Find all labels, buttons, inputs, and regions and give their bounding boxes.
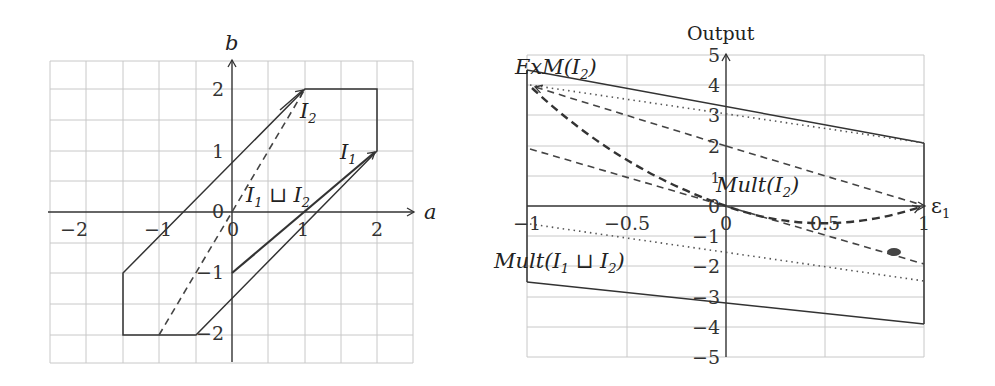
- y-tick: −4: [692, 316, 720, 338]
- x-tick: 0: [720, 212, 732, 234]
- left-plot: −2 −1 0 1 2 −2 −1 1 2 0 a b I2 I1 I1 ⊔ I…: [48, 31, 437, 363]
- epsilon-axis-label: ε1: [931, 194, 950, 221]
- y-tick: −1: [692, 225, 720, 247]
- x-tick: 2: [371, 218, 383, 240]
- right-plot: −1 −0.5 0 0.5 1 5 4 3 2 1 0 −1 −2 −3 −4 …: [493, 22, 950, 368]
- join-label: I1 ⊔ I2: [245, 183, 310, 210]
- x-tick: −2: [60, 218, 88, 240]
- y-tick: 2: [212, 78, 224, 100]
- y-tick: 5: [708, 44, 720, 66]
- x-tick: −0.5: [604, 212, 650, 234]
- y-tick: −3: [692, 286, 720, 308]
- multjoin-upper-dotted: [530, 85, 924, 143]
- multjoin-label: Mult(I1 ⊔ I2): [493, 249, 625, 276]
- exm-label: ExM(I2): [514, 55, 597, 82]
- x-tick: 0: [227, 218, 239, 240]
- a-axis-label: a: [424, 200, 437, 224]
- right-x-tick-labels: −1 −0.5 0 0.5 1: [513, 212, 930, 234]
- figure: −2 −1 0 1 2 −2 −1 1 2 0 a b I2 I1 I1 ⊔ I…: [0, 0, 995, 386]
- y-tick: 1: [212, 140, 224, 162]
- y-tick: 0: [708, 195, 720, 217]
- x-tick: −1: [144, 218, 172, 240]
- mult-I2-label: Mult(I2): [715, 173, 799, 200]
- y-tick: −2: [692, 255, 720, 277]
- b-axis-label: b: [225, 31, 238, 55]
- y-tick: 2: [708, 135, 720, 157]
- y-tick: 4: [708, 74, 720, 96]
- output-axis-label: Output: [687, 22, 755, 44]
- x-tick: −1: [513, 212, 541, 234]
- I2-label: I2: [299, 99, 317, 126]
- x-tick: 1: [918, 212, 930, 234]
- y-tick: −1: [196, 261, 224, 283]
- x-tick: 1: [297, 218, 309, 240]
- y-tick: −5: [692, 346, 720, 368]
- y-tick: −2: [196, 322, 224, 344]
- origin-label: 0: [212, 200, 224, 222]
- I1-label: I1: [339, 140, 357, 167]
- ink-smudge: [887, 248, 901, 256]
- x-tick: 0.5: [810, 212, 840, 234]
- y-tick: 3: [708, 104, 720, 126]
